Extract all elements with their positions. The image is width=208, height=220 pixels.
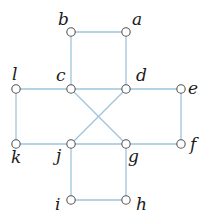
node-label-i: i [55, 194, 60, 214]
node-l [12, 85, 20, 93]
node-label-a: a [132, 9, 142, 29]
node-i [67, 196, 75, 204]
node-h [122, 196, 130, 204]
node-label-k: k [11, 147, 21, 167]
labels-group: abcdefghijkl [11, 9, 199, 214]
node-label-h: h [136, 194, 147, 214]
node-j [67, 140, 75, 148]
graph-diagram: abcdefghijkl [0, 0, 208, 220]
node-label-j: j [52, 145, 62, 165]
node-e [177, 85, 185, 93]
edges-group [16, 32, 181, 200]
node-a [122, 28, 130, 36]
node-b [67, 28, 75, 36]
node-label-e: e [188, 78, 198, 98]
node-label-b: b [58, 9, 69, 29]
node-f [177, 140, 185, 148]
node-d [122, 85, 130, 93]
node-c [67, 85, 75, 93]
node-label-g: g [128, 146, 139, 166]
node-label-c: c [56, 65, 66, 85]
node-label-d: d [136, 65, 147, 85]
node-label-f: f [188, 134, 199, 154]
node-label-l: l [12, 64, 17, 84]
